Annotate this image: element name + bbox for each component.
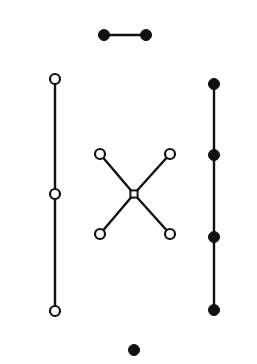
diagram-svg xyxy=(0,0,257,364)
node-filled-bottom-isolated-node xyxy=(129,345,140,356)
edge-center-x xyxy=(134,154,170,194)
node-filled-right-chain xyxy=(209,79,220,90)
node-open-center-x xyxy=(165,229,175,239)
node-open-left-chain xyxy=(50,74,60,84)
node-layer xyxy=(50,30,220,356)
edge-center-x xyxy=(100,194,134,234)
node-filled-right-chain xyxy=(209,150,220,161)
node-open-center-x xyxy=(95,149,105,159)
diagram-canvas xyxy=(0,0,257,364)
node-open-center-x xyxy=(95,229,105,239)
node-filled-top-dumbbell xyxy=(141,30,152,41)
node-open-center-x xyxy=(165,149,175,159)
node-hub-center-x xyxy=(130,190,137,197)
edge-center-x xyxy=(100,154,134,194)
node-filled-right-chain xyxy=(209,232,220,243)
node-filled-top-dumbbell xyxy=(99,30,110,41)
edge-center-x xyxy=(134,194,170,234)
edge-layer xyxy=(55,35,214,311)
node-open-left-chain xyxy=(50,189,60,199)
node-filled-right-chain xyxy=(209,305,220,316)
node-open-left-chain xyxy=(50,306,60,316)
